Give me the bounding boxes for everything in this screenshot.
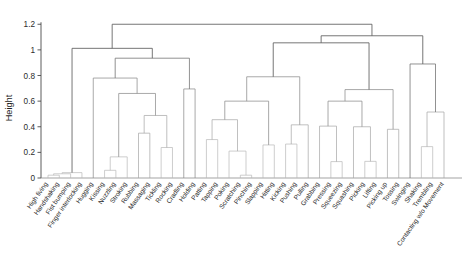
dendrogram-link: [320, 126, 337, 178]
dendrogram-link: [240, 175, 251, 178]
dendrogram-link: [115, 58, 189, 89]
dendrogram-link: [410, 64, 435, 178]
dendrogram-link: [72, 48, 152, 172]
y-axis-tick-label: 1: [30, 46, 35, 55]
dendrogram-link: [112, 24, 372, 48]
dendrogram-link: [263, 145, 274, 178]
y-axis-tick-label: 0.6: [24, 97, 36, 106]
dendrogram-link: [161, 148, 172, 178]
dendrogram-link: [345, 90, 393, 130]
y-axis: 00.20.40.60.811.2: [24, 20, 462, 183]
dendrogram-link: [206, 140, 217, 178]
dendrogram-link: [286, 144, 297, 178]
dendrogram-link: [184, 89, 195, 178]
y-axis-tick-label: 1.2: [24, 20, 36, 29]
dendrogram-link: [93, 78, 137, 178]
dendrogram-link: [328, 101, 362, 127]
dendrogram-link: [229, 151, 246, 178]
y-axis-tick-label: 0.8: [24, 72, 36, 81]
dendrogram-link: [365, 161, 376, 178]
dendrogram-link: [139, 133, 150, 178]
y-axis-tick-label: 0: [30, 174, 35, 183]
leaf-labels: High fivingHandshakingFist bumpingFinger…: [25, 180, 445, 247]
dendrogram-links: [48, 24, 444, 178]
dendrogram-figure: 00.20.40.60.811.2 Height High fivingHand…: [0, 0, 469, 276]
y-axis-tick-label: 0.4: [24, 123, 36, 132]
dendrogram-link: [225, 101, 269, 145]
dendrogram-link: [331, 162, 342, 178]
dendrogram-link: [273, 43, 369, 90]
dendrogram-link: [54, 174, 71, 178]
dendrogram-link: [427, 112, 444, 178]
y-axis-tick-label: 0.2: [24, 148, 36, 157]
dendrogram-canvas: 00.20.40.60.811.2 Height High fivingHand…: [0, 0, 469, 276]
dendrogram-link: [321, 36, 423, 64]
dendrogram-link: [212, 120, 237, 151]
dendrogram-link: [387, 129, 398, 178]
y-axis-title: Height: [4, 94, 14, 121]
dendrogram-link: [110, 157, 127, 178]
dendrogram-link: [105, 170, 116, 178]
dendrogram-link: [144, 115, 167, 147]
dendrogram-link: [48, 175, 59, 178]
dendrogram-link: [421, 147, 432, 178]
dendrogram-link: [291, 125, 308, 178]
dendrogram-link: [353, 127, 370, 178]
